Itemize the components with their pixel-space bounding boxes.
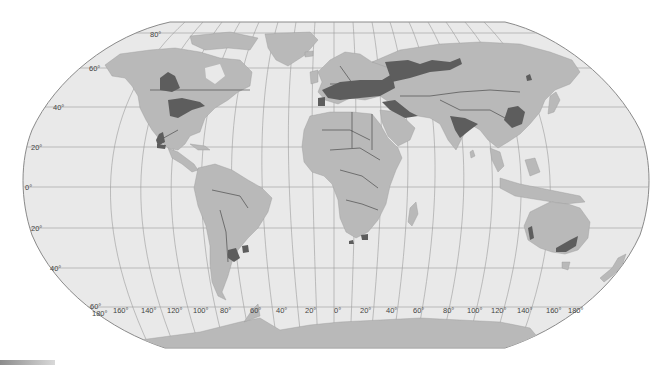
lon-label-60e: 60°: [413, 306, 424, 315]
gradient-bar: [0, 360, 55, 365]
lat-label-equator: 0°: [25, 183, 32, 192]
lat-label-40s: 40°: [50, 264, 61, 273]
lat-label-40n: 40°: [53, 103, 64, 112]
lon-label-100w: 100°: [193, 306, 209, 315]
region-south-africa: [361, 234, 368, 240]
uk: [310, 70, 318, 84]
lon-label-180w: 180°: [92, 309, 108, 318]
lon-label-40w: 40°: [276, 306, 287, 315]
world-map: 80° 60° 40° 20° 0° 20° 40° 60° 180° 160°…: [0, 0, 670, 365]
lon-label-20w: 20°: [305, 306, 316, 315]
lon-label-120e: 120°: [491, 306, 507, 315]
lon-label-120w: 120°: [167, 306, 183, 315]
lat-label-20s: 20°: [31, 224, 42, 233]
lat-label-80n: 80°: [150, 30, 161, 39]
lat-label-60n: 60°: [89, 64, 100, 73]
lon-label-140w: 140°: [141, 306, 157, 315]
lon-label-20e: 20°: [360, 306, 371, 315]
lon-label-60w: 60°: [250, 306, 261, 315]
lon-label-100e: 100°: [467, 306, 483, 315]
lon-label-80w: 80°: [220, 306, 231, 315]
lon-label-80e: 80°: [443, 306, 454, 315]
lon-label-160e: 160°: [546, 306, 562, 315]
lat-label-20n: 20°: [31, 143, 42, 152]
lon-label-140e: 140°: [517, 306, 533, 315]
lon-label-40e: 40°: [386, 306, 397, 315]
lon-label-180e: 180°: [568, 306, 584, 315]
lon-label-0: 0°: [334, 306, 341, 315]
lon-label-160w: 160°: [113, 306, 129, 315]
